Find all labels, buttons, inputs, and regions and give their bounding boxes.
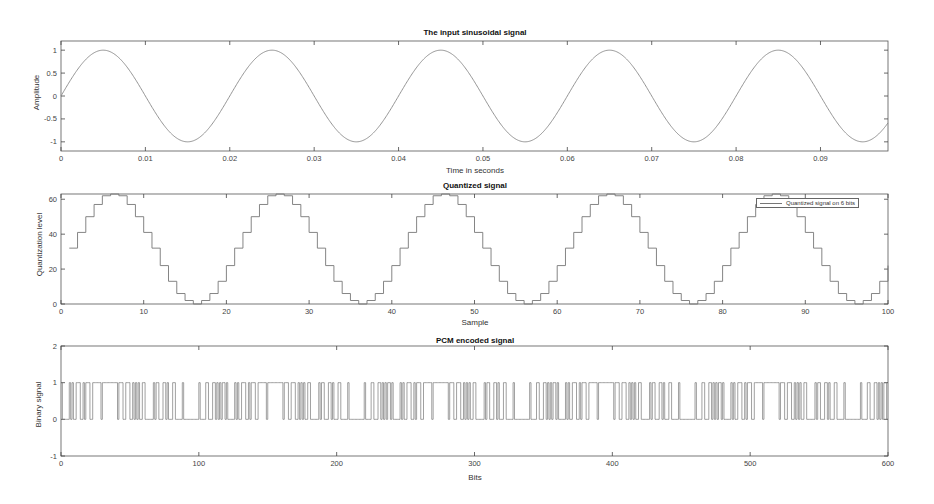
pcm-xlabel: Bits bbox=[460, 473, 490, 482]
x-tick-label: 100 bbox=[193, 459, 206, 468]
x-tick-label: 200 bbox=[330, 459, 343, 468]
y-tick-label: 2 bbox=[53, 342, 57, 351]
pcm-plot: 0100200300400500600-1012 bbox=[0, 0, 934, 504]
x-tick-label: 600 bbox=[882, 459, 895, 468]
y-tick-label: -1 bbox=[50, 452, 57, 461]
y-tick-label: 1 bbox=[53, 378, 57, 387]
x-tick-label: 300 bbox=[468, 459, 481, 468]
x-tick-label: 400 bbox=[606, 459, 619, 468]
x-tick-label: 0 bbox=[59, 459, 63, 468]
y-tick-label: 0 bbox=[53, 415, 57, 424]
pcm-panel: PCM encoded signal Binary signal 0100200… bbox=[0, 0, 934, 504]
x-tick-label: 500 bbox=[744, 459, 757, 468]
